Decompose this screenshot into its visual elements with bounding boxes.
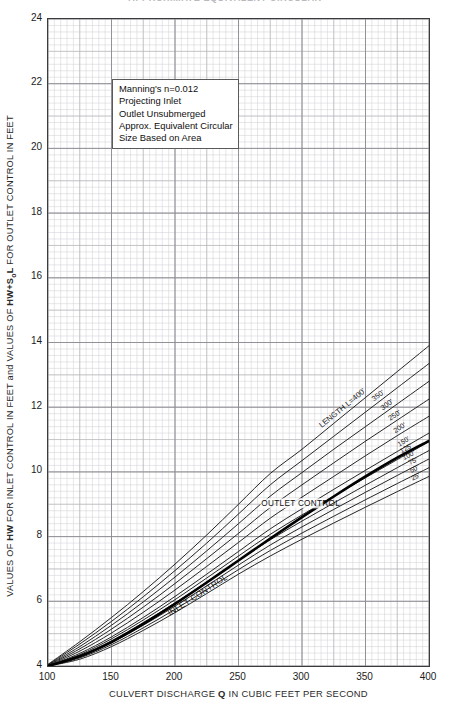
x-tick-250: 250 [216, 671, 260, 682]
inlet-control-annotation: INLET CONTROL [166, 573, 229, 618]
y-tick-12: 12 [8, 400, 42, 411]
curve-label-250-: 250' [387, 409, 402, 423]
x-tick-100: 100 [25, 671, 69, 682]
y-tick-20: 20 [8, 141, 42, 152]
y-tick-14: 14 [8, 335, 42, 346]
x-tick-150: 150 [89, 671, 133, 682]
y-tick-8: 8 [8, 529, 42, 540]
y-tick-16: 16 [8, 270, 42, 281]
note-line-4: Size Based on Area [119, 132, 233, 144]
notes-box: Manning's n=0.012 Projecting Inlet Outle… [112, 79, 239, 149]
svg-text:OUTLET CONTROL: OUTLET CONTROL [261, 499, 340, 508]
y-tick-4: 4 [8, 659, 42, 670]
note-line-0: Manning's n=0.012 [119, 83, 233, 95]
x-tick-400: 400 [406, 671, 450, 682]
x-tick-200: 200 [152, 671, 196, 682]
outlet-control-annotation: OUTLET CONTROL [260, 498, 340, 508]
y-tick-18: 18 [8, 206, 42, 217]
note-line-1: Projecting Inlet [119, 95, 233, 107]
y-tick-24: 24 [8, 12, 42, 23]
x-tick-350: 350 [343, 671, 387, 682]
curve-label-length-l-400-: LENGTH L=400' [317, 386, 367, 429]
x-axis-title: CULVERT DISCHARGE Q IN CUBIC FEET PER SE… [47, 688, 430, 699]
y-axis-title-text: VALUES OF HW FOR INLET CONTROL IN FEET a… [5, 115, 17, 596]
y-tick-22: 22 [8, 76, 42, 87]
y-tick-6: 6 [8, 594, 42, 605]
chart-title-strip: APPROXIMATE EQUIVALENT CIRCULAR [0, 0, 450, 7]
page-title: APPROXIMATE EQUIVALENT CIRCULAR [0, 0, 450, 3]
curve-label-200-: 200' [392, 421, 407, 435]
note-line-3: Approx. Equivalent Circular [119, 120, 233, 132]
curve-label-300-: 300' [379, 397, 396, 413]
note-line-2: Outlet Unsubmerged [119, 108, 233, 120]
chart-page: APPROXIMATE EQUIVALENT CIRCULAR VALUES O… [0, 0, 450, 711]
x-tick-300: 300 [279, 671, 323, 682]
y-tick-10: 10 [8, 464, 42, 475]
